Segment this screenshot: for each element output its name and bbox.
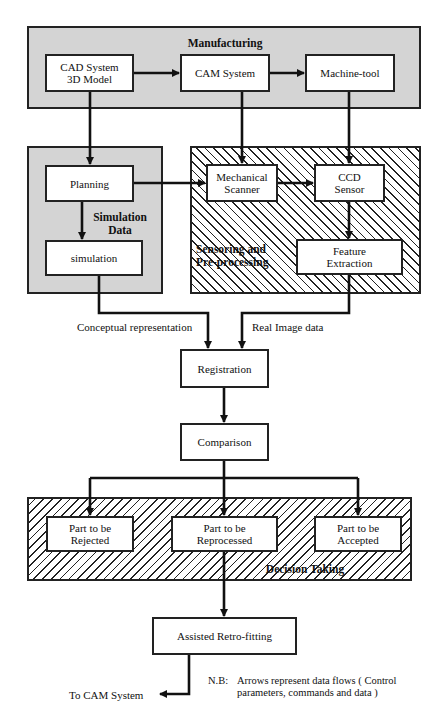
decision-title: Decision Taking — [255, 563, 355, 576]
ccd-sensor-line2: Sensor — [335, 183, 365, 195]
cad-system-node: CAD System3D Model — [45, 54, 134, 92]
ccd-sensor-line1: CCD — [335, 171, 365, 183]
mechanical-scanner-line2: Scanner — [216, 183, 267, 195]
machine-tool-node: Machine-tool — [305, 54, 395, 92]
part-accepted-line1: Part to be — [337, 522, 379, 534]
sensoring-title: Sensoring and Pre-processing — [196, 243, 286, 269]
to-cam-system-label: To CAM System — [69, 689, 143, 701]
real-image-data-label: Real Image data — [252, 321, 323, 333]
feature-extraction-node: FeatureExtraction — [296, 239, 403, 275]
part-rejected-node: Part to beRejected — [46, 516, 134, 552]
registration-node: Registration — [180, 349, 269, 388]
assisted-retrofitting-node: Assisted Retro-fitting — [152, 617, 297, 655]
ccd-sensor-node: CCDSensor — [314, 164, 385, 202]
comparison-node: Comparison — [180, 423, 269, 461]
footnote-line1: Arrows represent data flows ( Control — [237, 675, 397, 687]
simulation-data-title: Simulation Data — [86, 211, 154, 237]
simulation-data-title-text: Simulation Data — [93, 211, 147, 236]
planning-node: Planning — [45, 165, 134, 202]
footnote-prefix: N.B: — [208, 675, 237, 698]
feature-extraction-line2: Extraction — [327, 257, 373, 269]
simulation-node: simulation — [45, 240, 143, 276]
cad-system-line1: CAD System — [60, 61, 118, 73]
part-rejected-line2: Rejected — [69, 534, 111, 546]
cam-system-node: CAM System — [180, 54, 270, 92]
cad-system-line2: 3D Model — [60, 73, 118, 85]
feature-extraction-line1: Feature — [327, 245, 373, 257]
footnote: N.B: Arrows represent data flows ( Contr… — [208, 675, 438, 698]
part-accepted-node: Part to beAccepted — [314, 516, 402, 552]
part-reprocessed-line2: Reprocessed — [197, 534, 253, 546]
part-rejected-line1: Part to be — [69, 522, 111, 534]
manufacturing-title: Manufacturing — [170, 37, 280, 50]
part-accepted-line2: Accepted — [337, 534, 379, 546]
part-reprocessed-line1: Part to be — [197, 522, 253, 534]
mechanical-scanner-line1: Mechanical — [216, 171, 267, 183]
footnote-line2: parameters, commands and data ) — [237, 687, 397, 699]
mechanical-scanner-node: MechanicalScanner — [206, 164, 278, 202]
conceptual-representation-label: Conceptual representation — [77, 321, 192, 333]
part-reprocessed-node: Part to beReprocessed — [171, 516, 278, 552]
